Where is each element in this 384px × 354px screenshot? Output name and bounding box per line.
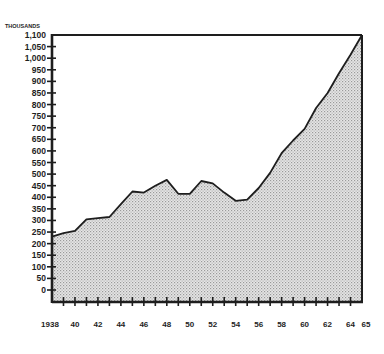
x-tick-label: 62 <box>323 320 332 329</box>
x-tick-label: 48 <box>162 320 171 329</box>
x-tick-label: 60 <box>300 320 309 329</box>
y-tick-label: 1,100 <box>25 30 47 40</box>
x-tick-label: 44 <box>116 320 125 329</box>
x-tick-label: 64 <box>346 320 355 329</box>
y-tick-label: 550 <box>32 158 46 168</box>
x-tick-label: 50 <box>185 320 194 329</box>
y-tick-label: 400 <box>32 192 46 202</box>
area-fill <box>52 35 362 302</box>
area-chart: THOUSANDS 050100150200250300350400450500… <box>0 0 384 354</box>
y-axis: 0501001502002503003504004505005506006507… <box>25 30 56 303</box>
y-tick-label: 150 <box>32 250 46 260</box>
y-tick-label: 500 <box>32 169 46 179</box>
y-tick-label: 900 <box>32 76 46 86</box>
x-tick-label: 58 <box>277 320 286 329</box>
y-tick-label: 700 <box>32 123 46 133</box>
y-tick-label: 200 <box>32 239 46 249</box>
y-tick-label: 600 <box>32 146 46 156</box>
y-tick-label: 450 <box>32 181 46 191</box>
y-tick-label: 850 <box>32 88 46 98</box>
y-tick-label: 800 <box>32 100 46 110</box>
x-tick-label: 42 <box>93 320 102 329</box>
y-tick-label: 250 <box>32 227 46 237</box>
unit-label: THOUSANDS <box>5 23 40 29</box>
y-tick-label: 1,000 <box>25 53 47 63</box>
y-tick-label: 350 <box>32 204 46 214</box>
x-tick-label: 54 <box>231 320 240 329</box>
y-tick-label: 750 <box>32 111 46 121</box>
y-tick-label: 0 <box>41 285 46 295</box>
x-tick-label: 46 <box>139 320 148 329</box>
y-tick-label: 950 <box>32 65 46 75</box>
x-tick-label: 1938 <box>41 320 59 329</box>
y-tick-label: 50 <box>37 273 47 283</box>
y-tick-label: 300 <box>32 215 46 225</box>
y-tick-label: 650 <box>32 134 46 144</box>
y-tick-label: 100 <box>32 262 46 272</box>
y-tick-label: 1,050 <box>25 42 47 52</box>
x-axis: 19384042444648505254565860626465 <box>41 297 371 329</box>
x-tick-label: 56 <box>254 320 263 329</box>
x-tick-label: 40 <box>71 320 80 329</box>
x-tick-label: 65 <box>362 320 371 329</box>
x-tick-label: 52 <box>208 320 217 329</box>
